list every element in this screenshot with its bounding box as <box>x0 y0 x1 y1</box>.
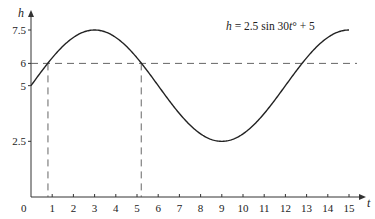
x-tick-label: 2 <box>71 202 77 214</box>
sine-curve <box>31 30 349 141</box>
x-tick-label: 12 <box>280 202 291 214</box>
x-tick-label: 14 <box>322 202 334 214</box>
y-tick-label: 6 <box>21 57 27 69</box>
axes <box>28 10 366 200</box>
x-tick-label: 5 <box>134 202 140 214</box>
x-axis-label: t <box>367 196 371 210</box>
series-curve <box>31 30 349 141</box>
equation-tail: + 5 <box>297 20 315 32</box>
x-tick-label: 7 <box>177 202 183 214</box>
equation-rest: = 2.5 sin 30 <box>232 20 290 32</box>
y-tick-label: 7.5 <box>12 24 26 36</box>
y-tick-label: 2.5 <box>12 135 26 147</box>
x-tick-label: 3 <box>92 202 98 214</box>
x-tick-label: 1 <box>49 202 55 214</box>
equation-label: h = 2.5 sin 30t° + 5 <box>226 20 315 32</box>
x-tick-label: 15 <box>344 202 356 214</box>
x-tick-label: 6 <box>155 202 161 214</box>
x-axis-arrow-icon <box>359 194 366 200</box>
x-tick-label: 10 <box>238 202 250 214</box>
chart: 1234567891011121314152.5567.5 h = 2.5 si… <box>0 0 375 219</box>
x-tick-label: 8 <box>198 202 204 214</box>
x-tick-label: 11 <box>259 202 270 214</box>
x-tick-label: 9 <box>219 202 225 214</box>
origin-label: 0 <box>21 202 27 214</box>
y-axis-label: h <box>18 6 24 20</box>
x-tick-label: 13 <box>301 202 313 214</box>
y-axis-arrow-icon <box>28 10 34 17</box>
reference-lines <box>31 63 357 197</box>
x-tick-label: 4 <box>113 202 119 214</box>
y-tick-label: 5 <box>21 80 27 92</box>
